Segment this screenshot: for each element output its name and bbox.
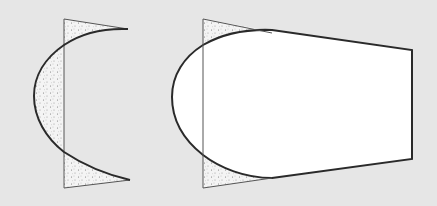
diagram-canvas (0, 0, 437, 206)
truncated-shape-figure (172, 19, 412, 188)
main-shape (172, 30, 412, 178)
crescent-figure (34, 19, 130, 188)
